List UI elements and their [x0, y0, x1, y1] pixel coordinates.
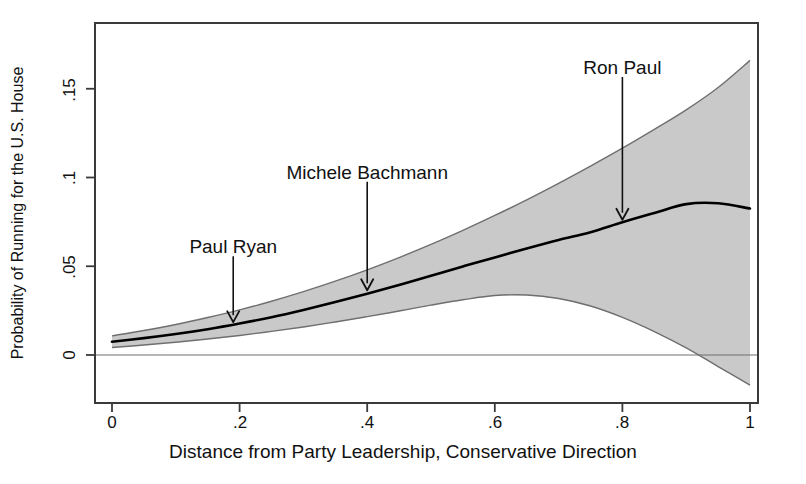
y-tick-label-0-text: 0	[60, 350, 80, 359]
y-tick-label-2-text: .1	[60, 171, 80, 185]
y-tick-label-3: .15	[60, 78, 80, 102]
annotation-label-paul-ryan: Paul Ryan	[189, 236, 277, 258]
y-axis-title: Probability of Running for the U.S. Hous…	[9, 67, 27, 360]
annotation-label-michele-bachmann: Michele Bachmann	[286, 162, 448, 184]
y-tick-label-2: .1	[60, 171, 80, 185]
x-tick-label-1: .2	[233, 413, 247, 433]
y-tick-label-1: .05	[60, 255, 80, 279]
x-axis-ticks	[112, 403, 750, 412]
x-tick-label-2: .4	[360, 413, 374, 433]
chart-canvas	[0, 0, 806, 484]
x-axis-title: Distance from Party Leadership, Conserva…	[169, 441, 637, 463]
figure-container: 0 .2 .4 .6 .8 1 0 .05 .1 .15 Probability…	[0, 0, 806, 484]
confidence-band	[112, 60, 750, 385]
x-tick-label-4: .8	[615, 413, 629, 433]
x-tick-label-0: 0	[107, 413, 116, 433]
x-tick-label-5: 1	[745, 413, 754, 433]
y-axis-ticks	[86, 89, 95, 355]
annotation-label-ron-paul: Ron Paul	[583, 57, 661, 79]
y-tick-label-0: 0	[60, 350, 80, 359]
x-tick-label-3: .6	[488, 413, 502, 433]
y-tick-label-1-text: .05	[60, 255, 80, 279]
y-tick-label-3-text: .15	[60, 78, 80, 102]
